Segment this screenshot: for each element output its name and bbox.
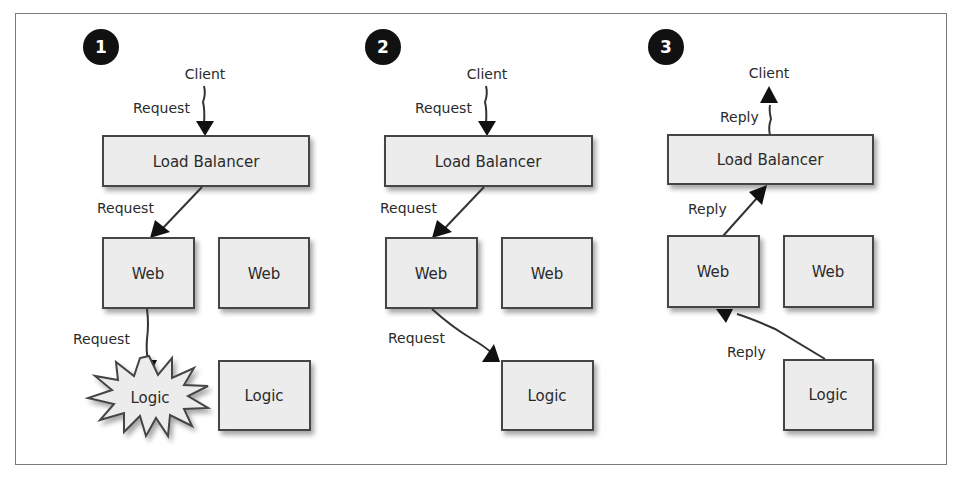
arrow-lb-to-client bbox=[760, 86, 778, 135]
web-label: Web bbox=[697, 263, 730, 281]
panel-2: 2 Client Request Load Balancer Request W… bbox=[365, 29, 593, 430]
panel-3: 3 Client Reply Load Balancer Reply Web W… bbox=[648, 29, 873, 430]
client-label: Client bbox=[467, 66, 508, 82]
web-label: Web bbox=[812, 263, 845, 281]
web-label: Web bbox=[531, 265, 564, 283]
client-label: Client bbox=[185, 66, 226, 82]
edge-label-request: Request bbox=[73, 331, 130, 347]
edge-label-request: Request bbox=[97, 200, 154, 216]
step-badge-3: 3 bbox=[648, 29, 684, 65]
panel-1: 1 Client Request Load Balancer Request W… bbox=[73, 29, 310, 436]
edge-label-request: Request bbox=[380, 200, 437, 216]
logic-label-failed: Logic bbox=[130, 389, 169, 407]
arrow-client-to-lb bbox=[196, 86, 214, 136]
arrow-lb-to-web bbox=[150, 187, 202, 238]
failover-diagram: 1 Client Request Load Balancer Request W… bbox=[0, 0, 960, 477]
load-balancer-label: Load Balancer bbox=[717, 151, 825, 169]
web-label: Web bbox=[415, 265, 448, 283]
step-badge-2: 2 bbox=[365, 29, 401, 65]
edge-label-reply: Reply bbox=[727, 344, 766, 360]
step-badge-1: 1 bbox=[83, 29, 119, 65]
logic-label: Logic bbox=[244, 387, 283, 405]
edge-label-request: Request bbox=[133, 100, 190, 116]
edge-label-request: Request bbox=[388, 330, 445, 346]
load-balancer-label: Load Balancer bbox=[435, 153, 543, 171]
edge-label-reply: Reply bbox=[720, 109, 759, 125]
svg-text:3: 3 bbox=[660, 37, 672, 57]
client-label: Client bbox=[749, 65, 790, 81]
arrow-client-to-lb bbox=[478, 86, 496, 136]
edge-label-reply: Reply bbox=[688, 201, 727, 217]
edge-label-request: Request bbox=[415, 100, 472, 116]
arrow-web-to-lb bbox=[723, 185, 767, 236]
arrow-lb-to-web bbox=[432, 187, 484, 238]
svg-text:1: 1 bbox=[95, 37, 107, 57]
logic-label: Logic bbox=[808, 386, 847, 404]
load-balancer-label: Load Balancer bbox=[153, 153, 261, 171]
web-label: Web bbox=[248, 265, 281, 283]
web-label: Web bbox=[132, 265, 165, 283]
svg-text:2: 2 bbox=[377, 37, 389, 57]
logic-label: Logic bbox=[527, 387, 566, 405]
